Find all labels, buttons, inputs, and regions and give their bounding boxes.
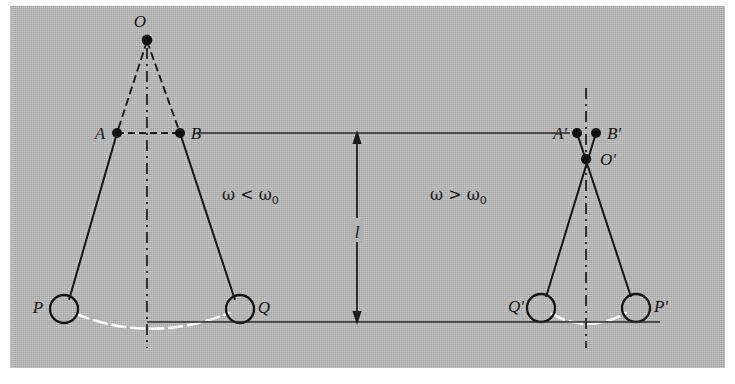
label-P: P [32,298,43,317]
pendulum-diagram: O A B P Q A' B' O' Q' P' [0,0,735,384]
label-O: O [134,12,146,31]
label-Qprime: Q' [508,297,524,316]
point-Oprime [581,154,591,164]
label-A: A [94,124,106,143]
annotation-omega-less: ω < ω0 [222,185,279,207]
label-Bprime: B' [607,124,621,143]
bob-P [50,295,78,323]
label-Oprime: O' [600,150,616,169]
point-B [175,128,185,138]
point-Bprime [591,128,601,138]
arm-O-B-dashed [147,41,180,133]
bob-Q [226,295,254,323]
swept-path-left [76,313,229,329]
annotation-omega-greater-text: ω > ω [430,185,480,204]
annotation-omega-greater: ω > ω0 [430,185,487,207]
dimension-arrowhead-bottom [352,311,361,325]
label-l: l [355,223,360,242]
arm-A-P [69,133,117,300]
dimension-arrowhead-top [352,130,361,144]
point-O [142,35,153,46]
annotation-omega-less-subscript: 0 [272,194,279,207]
arm-B-Q [180,133,235,300]
label-Pprime: P' [653,297,668,316]
bob-Qprime [527,294,555,322]
figure-root: O A B P Q A' B' O' Q' P' [0,0,735,384]
annotation-omega-greater-subscript: 0 [480,194,487,207]
annotation-omega-less-text: ω < ω [222,185,272,204]
point-Aprime [572,128,582,138]
label-Q: Q [258,298,270,317]
point-A [112,128,122,138]
arm-O-A-dashed [117,41,147,133]
bob-Pprime [622,294,650,322]
